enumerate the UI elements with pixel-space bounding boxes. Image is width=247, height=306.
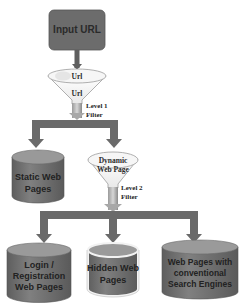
- funnel2-arrow-icon: [104, 204, 122, 212]
- search-store-line1: Web Pages with: [168, 257, 233, 267]
- search-store-line3: Search Engines: [168, 279, 232, 289]
- hidden-store-line2: Pages: [100, 275, 127, 285]
- input-url-label: Input URL: [53, 24, 101, 35]
- hidden-store-line1: Hidden Web: [87, 263, 139, 273]
- funnel2-label-line2: Web Page: [97, 165, 130, 174]
- level2-filter-funnel: Dynamic Web Page: [88, 152, 138, 188]
- conventional-search-store: Web Pages with conventional Search Engin…: [162, 240, 238, 299]
- static-store-line2: Pages: [25, 184, 52, 194]
- login-store-line3: Web Pages: [15, 282, 63, 292]
- static-store-line1: Static Web: [15, 172, 61, 182]
- funnel2-label-line1: Dynamic: [99, 156, 128, 165]
- funnel1-bottom-label: Url: [72, 89, 83, 98]
- hidden-web-pages-store: Hidden Web Pages: [87, 243, 139, 297]
- level2-label-line2: Filter: [121, 193, 138, 201]
- level2-label-line1: Level 2: [121, 184, 143, 192]
- login-store-line2: Registration: [13, 271, 66, 281]
- level2-split-arrow: [36, 211, 202, 243]
- level1-filter-funnel: Url Url: [48, 69, 106, 104]
- search-store-line2: conventional: [174, 268, 226, 278]
- static-web-pages-store: Static Web Pages: [12, 150, 64, 203]
- login-registration-store: Login / Registration Web Pages: [7, 243, 71, 302]
- login-store-line1: Login /: [24, 260, 54, 270]
- diagram-canvas: Input URL Url Url Level 1 Filter Static …: [0, 0, 247, 306]
- level1-split-arrow: [28, 120, 122, 148]
- funnel1-top-label: Url: [72, 72, 83, 81]
- level1-label-line1: Level 1: [86, 102, 108, 110]
- level1-label-line2: Filter: [86, 111, 103, 119]
- input-url-box: Input URL: [49, 10, 105, 50]
- funnel1-arrow-icon: [69, 113, 85, 120]
